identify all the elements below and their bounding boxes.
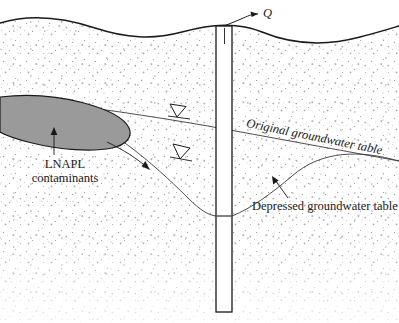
diagram-canvas: Q Original groundwater table Depressed g… (0, 0, 399, 323)
lnapl-contaminants-label: LNAPL contaminants (22, 157, 108, 186)
lnapl-label-line2: contaminants (22, 171, 108, 185)
depressed-groundwater-table-label: Depressed groundwater table (252, 199, 398, 213)
pumping-rate-arrow (224, 12, 258, 26)
lnapl-label-line1: LNAPL (22, 157, 108, 171)
pumping-rate-label: Q (263, 6, 272, 20)
pumping-well-casing (216, 26, 232, 312)
